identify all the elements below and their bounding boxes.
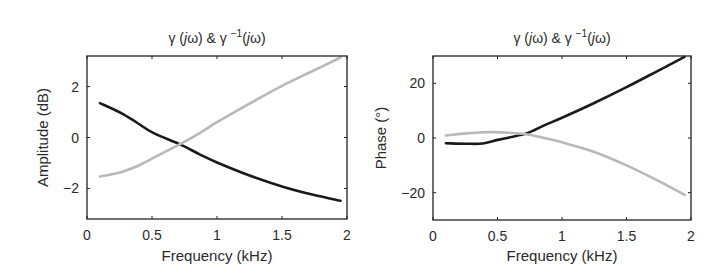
y-tick-label: 0 — [417, 130, 425, 146]
y-tick-label: 20 — [409, 75, 425, 91]
x-tick-label: 1 — [213, 227, 221, 243]
phase-subplot: γ (jω) & γ −1(jω)00.511.52−20020Frequenc… — [372, 28, 695, 264]
axes-box — [433, 56, 691, 220]
x-tick-label: 0.5 — [142, 227, 162, 243]
x-axis-label: Frequency (kHz) — [507, 247, 618, 264]
y-tick-label: −2 — [63, 180, 79, 196]
gamma-line — [446, 57, 685, 144]
y-tick-label: −20 — [401, 185, 425, 201]
gamma-inverse-line — [100, 58, 341, 177]
y-tick-label: 2 — [71, 79, 79, 95]
chart-title: γ (jω) & γ −1(jω) — [513, 28, 610, 46]
chart-title: γ (jω) & γ −1(jω) — [168, 28, 265, 46]
x-tick-label: 0.5 — [488, 228, 508, 244]
x-tick-label: 2 — [343, 227, 351, 243]
gamma-inverse-line — [446, 132, 685, 195]
x-tick-label: 0 — [83, 227, 91, 243]
amplitude-subplot: γ (jω) & γ −1(jω)00.511.52−202Frequency … — [34, 28, 351, 264]
x-tick-label: 0 — [429, 228, 437, 244]
chart-canvas: γ (jω) & γ −1(jω)00.511.52−202Frequency … — [0, 0, 716, 279]
x-tick-label: 2 — [687, 228, 695, 244]
x-tick-label: 1 — [558, 228, 566, 244]
x-axis-label: Frequency (kHz) — [162, 247, 273, 264]
figure: γ (jω) & γ −1(jω)00.511.52−202Frequency … — [0, 0, 716, 279]
x-tick-label: 1.5 — [272, 227, 292, 243]
y-axis-label: Phase (°) — [372, 107, 389, 170]
gamma-line — [100, 103, 341, 201]
y-axis-label: Amplitude (dB) — [34, 88, 51, 187]
x-tick-label: 1.5 — [617, 228, 637, 244]
y-tick-label: 0 — [71, 130, 79, 146]
